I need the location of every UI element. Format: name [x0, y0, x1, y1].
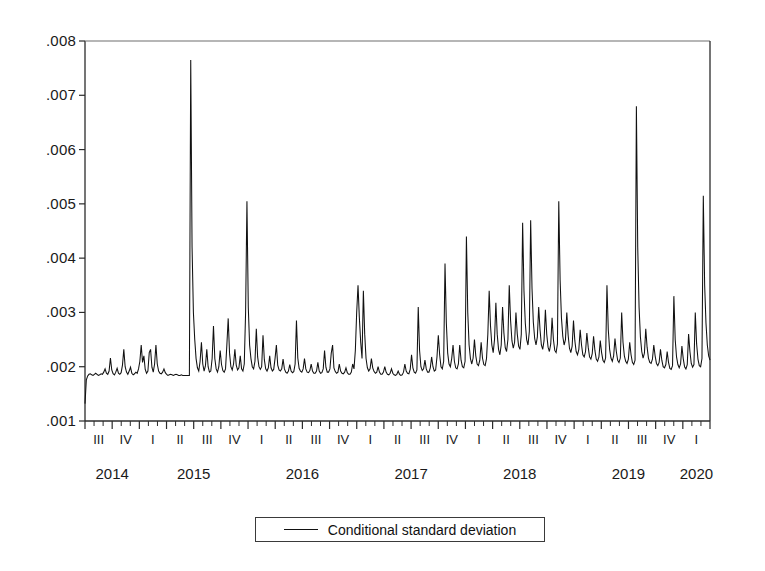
x-axis-quarter-label: II: [503, 432, 510, 447]
y-axis-ticks: [79, 41, 85, 421]
x-axis-year-label: 2014: [95, 465, 128, 482]
legend-line-marker: [284, 529, 318, 530]
x-axis-quarter-label: III: [528, 432, 539, 447]
x-axis-quarter-label: II: [611, 432, 618, 447]
x-axis-quarter-label: IV: [663, 432, 675, 447]
chart-container: .008.007.006.005.004.003.002.001 IIIIVII…: [0, 0, 765, 571]
y-axis-tick-label: .001: [22, 412, 76, 429]
y-axis-tick-label: .008: [22, 32, 76, 49]
y-axis-tick-label: .005: [22, 195, 76, 212]
x-axis-quarter-label: I: [477, 432, 481, 447]
y-axis-tick-label: .004: [22, 249, 76, 266]
x-axis-quarter-label: I: [260, 432, 264, 447]
x-axis-quarter-label: I: [151, 432, 155, 447]
y-axis-tick-label: .003: [22, 303, 76, 320]
x-axis-quarter-label: I: [369, 432, 373, 447]
x-axis-quarter-label: IV: [337, 432, 349, 447]
plot-area: [0, 0, 765, 571]
x-axis-quarter-label: III: [637, 432, 648, 447]
legend: Conditional standard deviation: [255, 517, 545, 542]
x-axis-year-label: 2015: [177, 465, 210, 482]
x-axis-quarter-label: III: [93, 432, 104, 447]
y-axis-tick-label: .007: [22, 86, 76, 103]
x-axis-quarter-label: IV: [446, 432, 458, 447]
x-axis-quarter-label: IV: [228, 432, 240, 447]
x-axis-quarter-label: IV: [554, 432, 566, 447]
x-axis-year-label: 2016: [286, 465, 319, 482]
legend-label: Conditional standard deviation: [328, 522, 516, 538]
x-axis-quarter-label: II: [394, 432, 401, 447]
x-axis-year-label: 2017: [394, 465, 427, 482]
plot-frame: [85, 41, 710, 421]
x-axis-quarter-label: III: [202, 432, 213, 447]
x-axis-quarter-label: II: [285, 432, 292, 447]
y-axis-tick-label: .002: [22, 358, 76, 375]
data-series-group: [85, 60, 710, 404]
x-axis-year-label: 2019: [612, 465, 645, 482]
series-conditional-standard-deviation: [85, 60, 710, 404]
x-axis-quarter-label: III: [311, 432, 322, 447]
x-axis-quarter-label: I: [586, 432, 590, 447]
x-axis-quarter-label: I: [695, 432, 699, 447]
x-axis-ticks: [85, 421, 710, 429]
x-axis-quarter-label: III: [419, 432, 430, 447]
x-axis-quarter-label: II: [176, 432, 183, 447]
x-axis-quarter-label: IV: [120, 432, 132, 447]
y-axis-tick-label: .006: [22, 141, 76, 158]
x-axis-year-label: 2020: [680, 465, 713, 482]
x-axis-year-label: 2018: [503, 465, 536, 482]
